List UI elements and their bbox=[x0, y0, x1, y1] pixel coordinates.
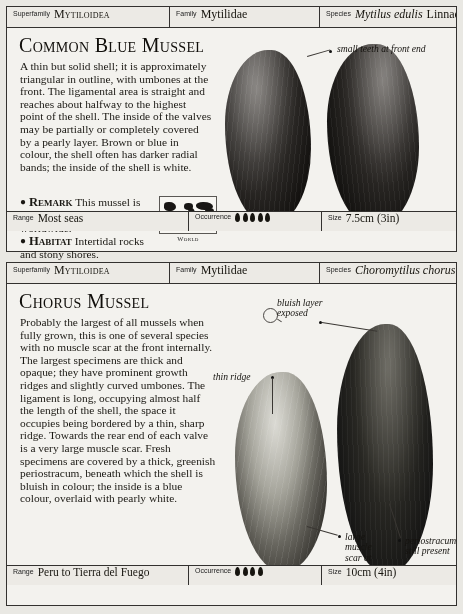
bullet-icon: ● bbox=[20, 196, 26, 207]
callout-bluish-layer: bluish layer exposed bbox=[277, 298, 351, 319]
range-value: Most seas bbox=[38, 212, 84, 224]
range-label: Range bbox=[13, 214, 34, 221]
entry-body: Chorus Mussel Probably the largest of al… bbox=[7, 284, 456, 585]
occurrence-shell-icon bbox=[235, 567, 240, 576]
map-caption: World bbox=[159, 235, 217, 243]
family-value: Mytilidae bbox=[201, 263, 248, 278]
footer-size: Size 7.5cm (3in) bbox=[322, 212, 456, 231]
occurrence-shell-icons bbox=[235, 567, 263, 576]
taxonomy-superfamily: Superfamily Mytiloidea bbox=[7, 263, 170, 283]
taxonomy-bar: Superfamily Mytiloidea Family Mytilidae … bbox=[7, 7, 456, 28]
specimen-photo-second-valve bbox=[327, 44, 419, 228]
size-value: 10cm (4in) bbox=[346, 566, 397, 578]
habitat-note: ● Habitat Intertidal rocks and stony sho… bbox=[20, 235, 156, 261]
occurrence-shell-icon bbox=[258, 213, 263, 222]
superfamily-value: Mytiloidea bbox=[54, 263, 110, 278]
page-title: Common Blue Mussel bbox=[19, 34, 204, 57]
species-latin-name: Choromytilus chorus bbox=[355, 263, 456, 278]
callout-thin-ridge: thin ridge bbox=[213, 372, 267, 382]
family-label: Family bbox=[176, 266, 197, 273]
occurrence-shell-icon bbox=[258, 567, 263, 576]
footer-size: Size 10cm (4in) bbox=[322, 566, 456, 585]
footer-range: Range Peru to Tierra del Fuego bbox=[7, 566, 189, 585]
size-value: 7.5cm (3in) bbox=[346, 212, 400, 224]
occurrence-shell-icon bbox=[265, 213, 270, 222]
callout-small-teeth: small teeth at front end bbox=[337, 44, 429, 54]
family-value: Mytilidae bbox=[201, 7, 248, 22]
species-entry-chorus-mussel: Superfamily Mytiloidea Family Mytilidae … bbox=[6, 262, 457, 606]
shell-sheen bbox=[235, 372, 327, 572]
magnifier-icon bbox=[263, 308, 278, 323]
specimen-photo-exterior bbox=[225, 50, 311, 226]
shell-sheen bbox=[327, 44, 419, 228]
occurrence-label: Occurrence bbox=[195, 213, 231, 220]
occurrence-shell-icon bbox=[235, 213, 240, 222]
footer-occurrence: Occurrence bbox=[189, 212, 322, 231]
species-description: A thin but solid shell; it is approximat… bbox=[20, 60, 212, 173]
species-latin-name: Mytilus edulis bbox=[355, 7, 423, 22]
family-label: Family bbox=[176, 10, 197, 17]
specimen-photo-interior bbox=[235, 372, 327, 572]
taxonomy-family: Family Mytilidae bbox=[170, 7, 320, 27]
taxonomy-bar: Superfamily Mytiloidea Family Mytilidae … bbox=[7, 263, 456, 284]
callout-dot bbox=[398, 539, 401, 542]
footer-data-bar: Range Most seas Occurrence Size 7.5cm (3… bbox=[7, 211, 456, 231]
size-label: Size bbox=[328, 214, 342, 221]
occurrence-shell-icons bbox=[235, 213, 270, 222]
callout-dot bbox=[338, 535, 341, 538]
taxonomy-species: Species Choromytilus chorus Molina bbox=[320, 263, 456, 283]
taxonomy-species: Species Mytilus edulis Linnaeus bbox=[320, 7, 456, 27]
footer-data-bar: Range Peru to Tierra del Fuego Occurrenc… bbox=[7, 565, 456, 585]
superfamily-value: Mytiloidea bbox=[54, 7, 110, 22]
occurrence-shell-icon bbox=[243, 213, 248, 222]
species-label: Species bbox=[326, 10, 351, 17]
species-label: Species bbox=[326, 266, 351, 273]
remark-label: Remark bbox=[29, 195, 73, 209]
occurrence-shell-icon bbox=[243, 567, 248, 576]
bullet-icon: ● bbox=[20, 235, 26, 246]
occurrence-shell-icon bbox=[250, 213, 255, 222]
shell-exterior bbox=[225, 50, 311, 226]
occurrence-shell-icon bbox=[250, 567, 255, 576]
species-entry-common-blue-mussel: Superfamily Mytiloidea Family Mytilidae … bbox=[6, 6, 457, 252]
habitat-label: Habitat bbox=[29, 234, 72, 248]
field-guide-page: Superfamily Mytiloidea Family Mytilidae … bbox=[0, 0, 463, 614]
footer-range: Range Most seas bbox=[7, 212, 189, 231]
shell-second-valve bbox=[327, 44, 419, 228]
callout-leader-line bbox=[272, 378, 273, 414]
superfamily-label: Superfamily bbox=[13, 266, 50, 273]
species-author: Linnaeus bbox=[427, 7, 456, 22]
page-title: Chorus Mussel bbox=[19, 290, 149, 313]
taxonomy-superfamily: Superfamily Mytiloidea bbox=[7, 7, 170, 27]
species-description: Probably the largest of all mussels when… bbox=[20, 316, 216, 505]
callout-periostracum: periostracum still present bbox=[405, 536, 451, 557]
shell-interior bbox=[235, 372, 327, 572]
size-label: Size bbox=[328, 568, 342, 575]
shell-sheen bbox=[225, 50, 311, 226]
occurrence-label: Occurrence bbox=[195, 567, 231, 574]
superfamily-label: Superfamily bbox=[13, 10, 50, 17]
entry-body: Common Blue Mussel A thin but solid shel… bbox=[7, 28, 456, 231]
footer-occurrence: Occurrence bbox=[189, 566, 322, 585]
taxonomy-family: Family Mytilidae bbox=[170, 263, 320, 283]
range-label: Range bbox=[13, 568, 34, 575]
range-value: Peru to Tierra del Fuego bbox=[38, 566, 150, 578]
